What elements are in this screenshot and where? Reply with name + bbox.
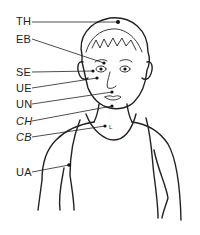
point-eb bbox=[102, 61, 105, 64]
label-ua: UA bbox=[16, 167, 32, 178]
left-strap bbox=[70, 120, 80, 210]
nose bbox=[107, 72, 116, 88]
label-cb: CB bbox=[16, 132, 32, 143]
label-un: UN bbox=[16, 99, 32, 110]
right-eyebrow bbox=[120, 60, 132, 62]
left-arm-inner bbox=[59, 168, 64, 210]
mouth bbox=[105, 96, 121, 100]
point-ch bbox=[110, 104, 113, 107]
tapping-points-diagram: L TH EB SE UE UN CH CB UA bbox=[0, 0, 200, 235]
pointer-cb bbox=[32, 126, 105, 137]
label-ue: UE bbox=[16, 83, 32, 94]
label-ch: CH bbox=[16, 116, 32, 127]
pointer-ch bbox=[32, 106, 112, 121]
point-th bbox=[116, 20, 120, 24]
label-th: TH bbox=[16, 16, 31, 27]
right-arm-inner bbox=[154, 150, 168, 218]
hair bbox=[86, 29, 142, 52]
point-cb bbox=[103, 124, 106, 127]
right-shoulder bbox=[132, 122, 181, 220]
label-eb: EB bbox=[16, 34, 31, 45]
point-se bbox=[91, 69, 94, 72]
point-un bbox=[110, 90, 113, 93]
label-se: SE bbox=[16, 67, 31, 78]
small-mark: L bbox=[109, 124, 113, 130]
pointer-eb bbox=[32, 39, 104, 63]
pointer-un bbox=[32, 92, 112, 104]
right-strap bbox=[146, 118, 158, 218]
point-ua bbox=[67, 163, 71, 167]
point-ue bbox=[95, 76, 98, 79]
